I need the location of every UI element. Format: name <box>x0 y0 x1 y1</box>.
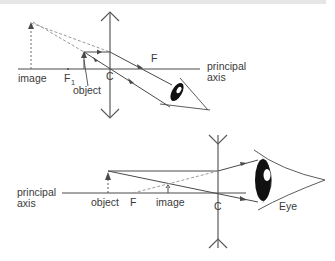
virtual-image-arrow <box>28 22 34 69</box>
object-pointer <box>84 60 88 86</box>
focal-point-f1 <box>67 68 69 70</box>
object-arrow-bottom <box>105 172 111 193</box>
label-center-top: C <box>106 70 114 82</box>
ray-diverged <box>218 160 258 171</box>
label-focus-bottom: F <box>130 196 136 208</box>
image-arrow-bottom <box>166 185 170 193</box>
label-f1: F <box>64 72 70 84</box>
label-object-bottom: object <box>91 196 119 208</box>
convex-lens-diagram: image F 1 C F object principal axis <box>18 12 246 118</box>
dashed-ray-bottom <box>133 171 218 193</box>
dashed-ray-2 <box>33 22 84 52</box>
label-center-bottom: C <box>214 200 222 212</box>
lens-diagrams: image F 1 C F object principal axis <box>0 0 335 261</box>
label-focus-top: F <box>151 52 157 64</box>
label-axis-bottom-2: axis <box>17 197 36 209</box>
concave-lens-diagram: principal axis object F image C Eye <box>17 135 325 248</box>
label-object-top: object <box>73 84 101 96</box>
label-image-bottom: image <box>156 196 185 208</box>
label-image-top: image <box>18 72 47 84</box>
concave-lens <box>209 135 227 248</box>
label-eye: Eye <box>279 200 297 212</box>
label-axis-top-2: axis <box>207 71 226 83</box>
